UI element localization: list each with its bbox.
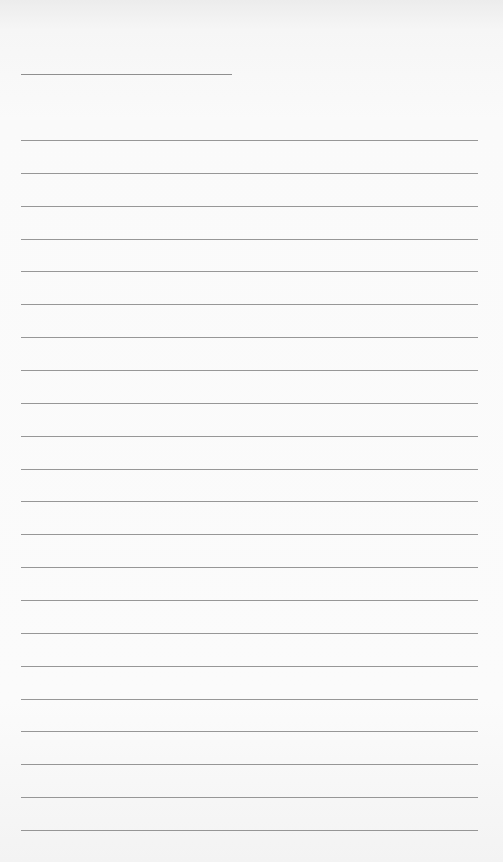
- writing-line: [21, 206, 478, 207]
- writing-line: [21, 699, 478, 700]
- writing-line: [21, 403, 478, 404]
- writing-line: [21, 633, 478, 634]
- writing-line: [21, 830, 478, 831]
- writing-line: [21, 567, 478, 568]
- writing-line: [21, 337, 478, 338]
- writing-line: [21, 600, 478, 601]
- lined-paper-page: [0, 0, 503, 862]
- writing-line: [21, 764, 478, 765]
- writing-line: [21, 436, 478, 437]
- header-title-line: [21, 74, 232, 75]
- writing-line: [21, 797, 478, 798]
- writing-line: [21, 239, 478, 240]
- writing-line: [21, 469, 478, 470]
- writing-line: [21, 173, 478, 174]
- writing-line: [21, 370, 478, 371]
- writing-line: [21, 304, 478, 305]
- writing-line: [21, 731, 478, 732]
- writing-line: [21, 501, 478, 502]
- writing-line: [21, 271, 478, 272]
- writing-line: [21, 140, 478, 141]
- writing-line: [21, 534, 478, 535]
- writing-line: [21, 666, 478, 667]
